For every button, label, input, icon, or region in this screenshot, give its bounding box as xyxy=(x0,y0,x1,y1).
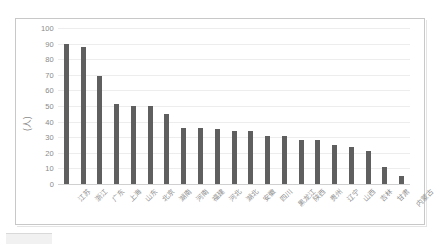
chart-plot-wrapper: 1009080706050403020100 (人) 江苏浙江广东上海山东北京湖… xyxy=(16,19,426,226)
x-axis-tick-label: 江苏 xyxy=(76,186,93,203)
x-axis-tick-label: 内蒙古 xyxy=(413,186,435,208)
x-axis-tick-label: 北京 xyxy=(159,186,176,203)
y-axis-tick-label: 100 xyxy=(41,24,54,33)
bar-series xyxy=(58,28,410,184)
x-axis-tick-label: 河北 xyxy=(226,186,243,203)
bar[interactable] xyxy=(248,131,253,184)
bar-slot xyxy=(326,28,343,184)
x-axis-tick-label: 贵州 xyxy=(327,186,344,203)
y-axis-tick-label: 90 xyxy=(45,39,54,48)
x-axis: 江苏浙江广东上海山东北京湖南河南福建河北湖北安徽四川黑龙江陕西贵州辽宁山西吉林甘… xyxy=(58,186,410,226)
bar-slot xyxy=(242,28,259,184)
x-axis-tick-label: 安徽 xyxy=(260,186,277,203)
bar[interactable] xyxy=(315,140,320,184)
bar-slot xyxy=(360,28,377,184)
bar-slot xyxy=(142,28,159,184)
y-axis-tick-label: 50 xyxy=(45,102,54,111)
bar-slot xyxy=(276,28,293,184)
y-axis-tick-label: 10 xyxy=(45,164,54,173)
bar-slot xyxy=(393,28,410,184)
bar-slot xyxy=(125,28,142,184)
bar[interactable] xyxy=(114,104,119,184)
x-axis-tick-label: 福建 xyxy=(210,186,227,203)
scan-artifact xyxy=(6,233,52,244)
x-axis-tick-label: 湖南 xyxy=(176,186,193,203)
bar[interactable] xyxy=(198,128,203,184)
bar[interactable] xyxy=(131,106,136,184)
bar[interactable] xyxy=(164,114,169,184)
bar-slot xyxy=(343,28,360,184)
bar-slot xyxy=(293,28,310,184)
y-axis-tick-label: 30 xyxy=(45,133,54,142)
bar-slot xyxy=(192,28,209,184)
bar[interactable] xyxy=(349,147,354,184)
y-axis-tick-label: 70 xyxy=(45,70,54,79)
bar[interactable] xyxy=(332,145,337,184)
bar-slot xyxy=(377,28,394,184)
bar-slot xyxy=(92,28,109,184)
bar-slot xyxy=(175,28,192,184)
bar[interactable] xyxy=(81,47,86,184)
y-axis-tick-label: 80 xyxy=(45,55,54,64)
chart-container[interactable]: 1009080706050403020100 (人) 江苏浙江广东上海山东北京湖… xyxy=(15,18,425,225)
y-axis-tick-label: 20 xyxy=(45,148,54,157)
bar[interactable] xyxy=(148,106,153,184)
bar[interactable] xyxy=(265,136,270,184)
bar-slot xyxy=(58,28,75,184)
x-axis-tick-label: 浙江 xyxy=(92,186,109,203)
x-axis-tick-label: 四川 xyxy=(277,186,294,203)
y-axis-title: (人) xyxy=(20,116,32,131)
bar[interactable] xyxy=(64,44,69,184)
y-axis-tick-label: 0 xyxy=(50,180,54,189)
bar-slot xyxy=(75,28,92,184)
x-axis-tick-label: 上海 xyxy=(126,186,143,203)
bar[interactable] xyxy=(382,167,387,184)
x-axis-tick-label: 吉林 xyxy=(377,186,394,203)
x-axis-tick-label: 湖北 xyxy=(243,186,260,203)
y-axis: 1009080706050403020100 xyxy=(16,19,58,184)
plot-area xyxy=(58,28,410,184)
bar[interactable] xyxy=(215,129,220,184)
bar-slot xyxy=(159,28,176,184)
x-axis-tick-label: 山东 xyxy=(143,186,160,203)
x-axis-tick-label: 山西 xyxy=(361,186,378,203)
x-axis-tick-label: 河南 xyxy=(193,186,210,203)
bar[interactable] xyxy=(366,151,371,184)
bar-slot xyxy=(259,28,276,184)
bar-slot xyxy=(226,28,243,184)
axis-baseline xyxy=(58,184,410,185)
bar[interactable] xyxy=(282,136,287,184)
bar[interactable] xyxy=(181,128,186,184)
y-axis-tick-label: 40 xyxy=(45,117,54,126)
bar-slot xyxy=(209,28,226,184)
x-axis-tick-label: 辽宁 xyxy=(344,186,361,203)
bar[interactable] xyxy=(299,140,304,184)
x-axis-tick-label: 甘肃 xyxy=(394,186,411,203)
bar[interactable] xyxy=(232,131,237,184)
bar[interactable] xyxy=(399,176,404,184)
bar-slot xyxy=(309,28,326,184)
x-axis-tick-label: 广东 xyxy=(109,186,126,203)
y-axis-tick-label: 60 xyxy=(45,86,54,95)
bar[interactable] xyxy=(97,76,102,184)
bar-slot xyxy=(108,28,125,184)
